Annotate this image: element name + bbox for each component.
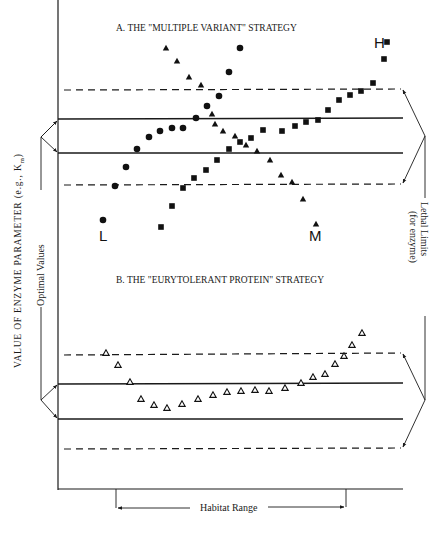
data-point [370, 80, 376, 86]
data-point [103, 350, 109, 356]
data-point [198, 82, 204, 88]
data-point [180, 125, 187, 132]
lethal-limits-bracket [403, 90, 425, 447]
label-m: M [309, 227, 322, 244]
data-point [220, 128, 226, 134]
data-markers [100, 39, 390, 410]
data-point [232, 133, 238, 139]
data-point [278, 172, 284, 178]
data-point [226, 146, 232, 152]
data-point [315, 117, 321, 123]
optimal-values-label: Optimal Values [35, 244, 46, 306]
data-point [347, 92, 353, 98]
data-point [151, 402, 157, 408]
data-point [289, 179, 295, 185]
data-point [336, 97, 342, 103]
panel-a-bands [58, 89, 403, 185]
data-point [186, 74, 192, 80]
data-point [224, 389, 230, 395]
data-point [237, 45, 244, 52]
data-point [169, 125, 176, 132]
data-point [332, 361, 338, 367]
data-point [237, 139, 243, 145]
data-point [214, 157, 220, 163]
figure: VALUE OF ENZYME PARAMETER (e.g., Km) Opt… [0, 0, 444, 536]
y-axis-label: VALUE OF ENZYME PARAMETER (e.g., Km) [13, 153, 26, 368]
lethal-limits-sublabel: (for enzyme) [407, 211, 419, 263]
data-point [243, 142, 249, 148]
data-point [193, 115, 200, 122]
lethal-limits-label: Lethal Limits [419, 202, 430, 256]
data-point [164, 405, 170, 411]
data-point [359, 330, 365, 336]
data-point [191, 175, 197, 181]
data-point [292, 123, 298, 129]
data-point [267, 157, 273, 163]
data-point [212, 121, 218, 127]
panel-a-title: A. THE "MULTIPLE VARIANT" STRATEGY [116, 23, 297, 33]
data-point [325, 107, 331, 113]
data-point [254, 148, 260, 154]
data-point [322, 371, 328, 377]
habitat-range-label: Habitat Range [200, 502, 258, 513]
data-point [112, 183, 119, 190]
data-point [303, 119, 309, 125]
data-point [226, 69, 233, 76]
data-point [282, 385, 288, 391]
data-point [174, 58, 180, 64]
data-point [358, 88, 364, 94]
data-point [279, 128, 285, 134]
data-point [115, 362, 121, 368]
data-point [210, 392, 216, 398]
data-point [260, 127, 266, 133]
data-point [266, 388, 272, 394]
panel-b-title: B. THE "EURYTOLERANT PROTEIN" STRATEGY [116, 275, 324, 285]
data-point [313, 221, 319, 227]
data-point [252, 387, 258, 393]
data-point [203, 167, 209, 173]
data-point [384, 39, 390, 45]
data-point [127, 379, 133, 385]
data-point [248, 135, 254, 141]
data-point [179, 401, 185, 407]
data-point [300, 196, 306, 202]
data-point [238, 388, 244, 394]
data-point [138, 396, 144, 402]
panel-b-bands [58, 353, 403, 449]
data-point [158, 224, 164, 230]
data-point [381, 56, 387, 62]
data-point [216, 93, 223, 100]
label-h: H [374, 34, 385, 51]
data-point [195, 396, 201, 402]
data-point [146, 134, 153, 141]
data-point [163, 45, 169, 51]
data-point [134, 146, 141, 153]
data-point [123, 164, 130, 171]
data-point [180, 185, 186, 191]
data-point [100, 217, 107, 224]
label-l: L [99, 227, 107, 244]
data-point [157, 128, 164, 135]
data-point [209, 111, 215, 117]
data-point [204, 103, 211, 110]
data-point [310, 374, 316, 380]
data-point [349, 342, 355, 348]
data-point [169, 203, 175, 209]
